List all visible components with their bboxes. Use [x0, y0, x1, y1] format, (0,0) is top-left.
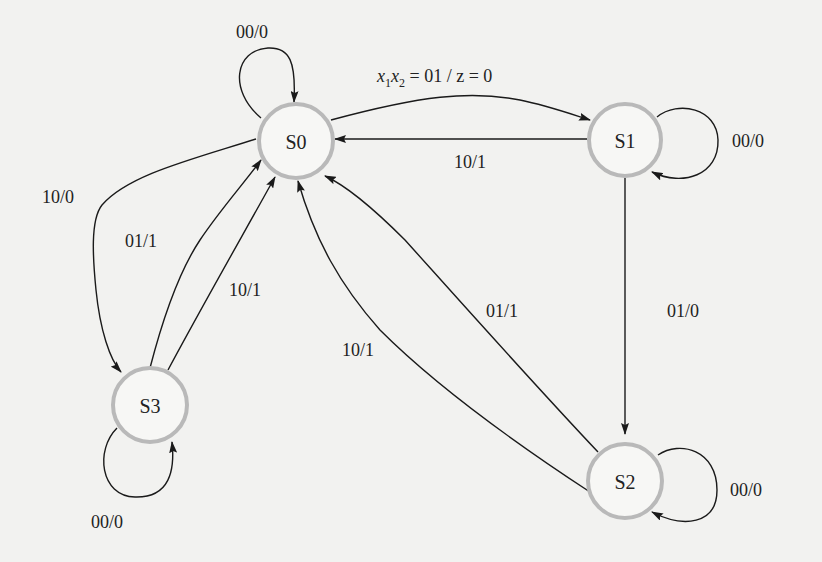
- state-s0: S0: [259, 104, 333, 178]
- label-s1-s0: 10/1: [454, 152, 486, 172]
- state-s0-label: S0: [285, 131, 306, 153]
- label-s3-s3: 00/0: [91, 512, 123, 532]
- label-s0-s0: 00/0: [236, 22, 268, 42]
- state-s2-label: S2: [614, 471, 635, 493]
- label-s2-s2: 00/0: [730, 480, 762, 500]
- label-s3-s0-01: 01/1: [125, 231, 157, 251]
- state-diagram: S0 S1 S2 S3 00/0 x1x2 = 01 / z = 0 10/1 …: [0, 0, 822, 562]
- state-s3: S3: [113, 368, 187, 442]
- state-s1: S1: [589, 104, 661, 176]
- edge-s3-s0-10: [168, 177, 275, 370]
- state-s3-label: S3: [139, 395, 160, 417]
- edge-s2-s0-10: [298, 181, 590, 492]
- label-s0-s1: x1x2 = 01 / z = 0: [376, 66, 492, 90]
- edge-s0-s1: [331, 95, 590, 120]
- label-s2-s0-01: 01/1: [486, 301, 518, 321]
- label-s1-s2: 01/0: [667, 301, 699, 321]
- label-s2-s0-10: 10/1: [342, 340, 374, 360]
- label-s0-s3: 10/0: [42, 187, 74, 207]
- label-s1-s1: 00/0: [732, 131, 764, 151]
- state-s2: S2: [588, 444, 662, 518]
- state-s1-label: S1: [614, 130, 635, 152]
- edge-s3-s0-01: [150, 160, 261, 368]
- label-s3-s0-10: 10/1: [229, 280, 261, 300]
